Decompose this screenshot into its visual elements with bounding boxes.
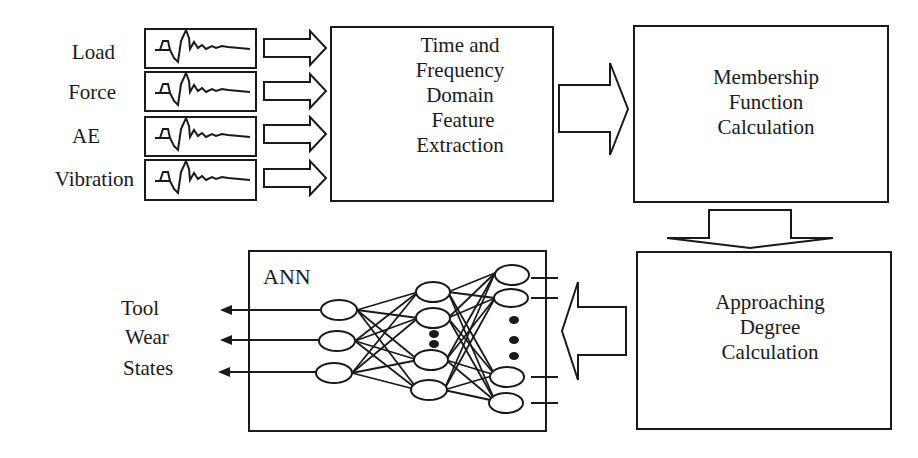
ann-node — [490, 367, 524, 387]
arrow-right-icon — [264, 161, 326, 195]
text-line: Extraction — [380, 133, 540, 158]
text-line: Approaching — [684, 290, 856, 315]
text-line: Degree — [684, 315, 856, 340]
ann-node — [416, 308, 450, 328]
text-line: Domain — [380, 83, 540, 108]
text-line: Feature — [380, 108, 540, 133]
text-line: Function — [680, 90, 852, 115]
ann-input-lines — [531, 278, 558, 403]
waveform-icon — [155, 118, 250, 150]
membership-function-text: Membership Function Calculation — [680, 65, 852, 140]
waveform-icon — [155, 30, 250, 62]
feature-extraction-text: Time and Frequency Domain Feature Extrac… — [380, 33, 540, 158]
waveform-icon — [155, 73, 250, 105]
output-label-tool: Tool — [121, 296, 159, 320]
ann-node — [319, 331, 355, 351]
arrow-left-icon — [220, 335, 232, 345]
approaching-degree-text: Approaching Degree Calculation — [684, 290, 856, 365]
arrow-left-icon — [562, 282, 626, 380]
signal-box-load — [145, 29, 256, 68]
arrow-right-icon — [264, 117, 326, 151]
arrow-right-icon — [264, 31, 326, 65]
waveform-icon — [155, 161, 250, 193]
ann-node — [416, 282, 450, 302]
ann-node — [321, 300, 357, 320]
text-line: Membership — [680, 65, 852, 90]
arrow-left-icon — [220, 305, 232, 315]
input-label-load: Load — [0, 40, 115, 64]
arrow-right-icon — [559, 63, 628, 155]
ann-node — [316, 363, 352, 383]
ann-node — [495, 265, 529, 285]
ann-node — [489, 393, 523, 413]
arrow-right-icon — [264, 74, 326, 108]
input-label-force: Force — [0, 80, 116, 104]
signal-box-ae — [145, 117, 256, 156]
text-line: Frequency — [380, 58, 540, 83]
output-arrows — [230, 310, 320, 372]
text-line: Calculation — [680, 115, 852, 140]
ann-title: ANN — [263, 265, 311, 289]
ann-node — [411, 380, 447, 400]
input-label-ae: AE — [0, 124, 100, 148]
signal-box-vibration — [145, 160, 256, 200]
ann-node — [414, 350, 448, 370]
arrow-left-icon — [218, 367, 230, 377]
text-line: Calculation — [684, 340, 856, 365]
arrowheads — [218, 305, 232, 377]
ann-node — [494, 289, 528, 307]
text-line: Time and — [380, 33, 540, 58]
signal-box-force — [145, 72, 256, 111]
output-label-wear: Wear — [125, 325, 169, 349]
arrow-down-icon — [667, 210, 833, 248]
input-label-vibration: Vibration — [4, 167, 134, 191]
output-label-states: States — [123, 356, 173, 380]
